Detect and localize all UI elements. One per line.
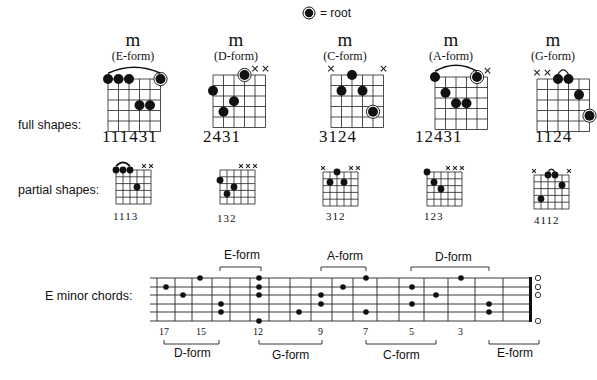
finger-dot [358, 86, 368, 96]
muted-string-x-icon [381, 66, 387, 72]
finger-dot [334, 169, 341, 176]
barre-arc-icon [548, 169, 555, 172]
open-string-icon [535, 318, 540, 323]
barre-arc-icon [116, 162, 130, 166]
muted-string-x-icon [142, 164, 146, 168]
fretboard-note-dot [256, 284, 262, 290]
root-note-dot [472, 72, 482, 82]
finger-dot [124, 74, 134, 84]
finger-dot [553, 74, 563, 84]
root-note-dot [368, 107, 378, 117]
finger-dot [341, 179, 348, 186]
muted-string-x-icon [321, 166, 325, 170]
form-bracket-above [321, 267, 366, 271]
muted-string-x-icon [253, 164, 257, 168]
finger-dot [229, 96, 239, 106]
muted-string-x-icon [545, 70, 551, 76]
barre-arc-icon [558, 70, 569, 74]
root-note-dot [585, 111, 595, 121]
finger-dot [127, 167, 134, 174]
finger-dot [219, 107, 229, 117]
finger-dot [559, 182, 566, 189]
fretboard-note-dot [363, 275, 369, 281]
finger-dot [451, 98, 461, 108]
fretboard-note-dot [318, 301, 324, 307]
fretboard-note-dot [296, 309, 302, 315]
finger-dot [431, 179, 438, 186]
finger-dot [574, 90, 584, 100]
fretboard-note-dot [433, 292, 439, 298]
fretboard-note-dot [256, 318, 262, 324]
muted-string-x-icon [349, 166, 353, 170]
fretboard-note-dot [318, 292, 324, 298]
barre-arc-icon [435, 65, 477, 71]
open-string-icon [535, 275, 540, 280]
muted-string-x-icon [252, 66, 258, 72]
finger-dot [564, 74, 574, 84]
fretboard-note-dot [340, 284, 346, 290]
form-bracket-below [366, 340, 436, 344]
form-bracket-below [259, 340, 322, 344]
form-bracket-above [411, 267, 489, 271]
fretboard-note-dot [163, 284, 169, 290]
open-string-icon [535, 284, 540, 289]
fretboard-note-dot [458, 275, 464, 281]
fretboard-note-dot [256, 292, 262, 298]
muted-string-x-icon [532, 169, 536, 173]
finger-dot [337, 86, 347, 96]
fretboard-note-dot [180, 292, 186, 298]
root-note-dot [240, 70, 250, 80]
muted-string-x-icon [446, 166, 450, 170]
fretboard-note-dot [409, 284, 415, 290]
finger-dot [217, 177, 224, 184]
fretboard-note-dot [256, 275, 262, 281]
muted-string-x-icon [485, 68, 491, 74]
finger-dot [208, 86, 218, 96]
finger-dot [114, 74, 124, 84]
muted-string-x-icon [567, 169, 571, 173]
fretboard-note-dot [363, 309, 369, 315]
muted-string-x-icon [453, 166, 457, 170]
open-string-icon [535, 292, 540, 297]
finger-dot [552, 172, 559, 179]
muted-string-x-icon [149, 164, 153, 168]
fretboard-note-dot [197, 275, 203, 281]
finger-dot [103, 74, 113, 84]
finger-dot [545, 172, 552, 179]
muted-string-x-icon [328, 66, 334, 72]
finger-dot [538, 195, 545, 202]
form-bracket-above [220, 267, 261, 271]
fretboard-nut [529, 277, 532, 322]
root-note-dot [156, 74, 166, 84]
finger-dot [224, 190, 231, 197]
finger-dot [231, 184, 238, 191]
finger-dot [462, 98, 472, 108]
fretboard-note-dot [218, 301, 224, 307]
diagram-graphics [0, 0, 597, 380]
finger-dot [135, 100, 145, 110]
form-bracket-below [164, 340, 219, 344]
finger-dot [120, 167, 127, 174]
finger-dot [134, 184, 141, 191]
finger-dot [145, 100, 155, 110]
fretboard-note-dot [486, 309, 492, 315]
form-bracket-below [489, 340, 539, 344]
fretboard-note-dot [486, 301, 492, 307]
muted-string-x-icon [356, 166, 360, 170]
finger-dot [438, 186, 445, 193]
finger-dot [327, 179, 334, 186]
finger-dot [441, 88, 451, 98]
finger-dot [430, 72, 440, 82]
muted-string-x-icon [246, 164, 250, 168]
fretboard-note-dot [218, 309, 224, 315]
finger-dot [347, 70, 357, 80]
fretboard-note-dot [409, 301, 415, 307]
finger-dot [113, 167, 120, 174]
muted-string-x-icon [263, 66, 269, 72]
muted-string-x-icon [460, 166, 464, 170]
muted-string-x-icon [239, 164, 243, 168]
finger-dot [424, 169, 431, 176]
barre-arc-icon [108, 67, 161, 73]
muted-string-x-icon [534, 70, 540, 76]
